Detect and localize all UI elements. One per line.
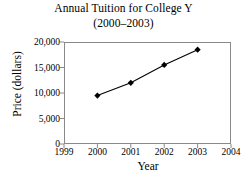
data-point-marker — [161, 62, 167, 68]
data-point-marker — [128, 80, 134, 86]
chart-figure: Annual Tuition for College Y (2000–2003)… — [0, 0, 247, 181]
plot-svg — [0, 0, 247, 181]
data-point-marker — [94, 92, 100, 98]
data-line-group — [97, 50, 197, 96]
data-point-marker — [195, 47, 201, 53]
data-line — [97, 50, 197, 96]
axis-tick-marks — [60, 42, 231, 148]
